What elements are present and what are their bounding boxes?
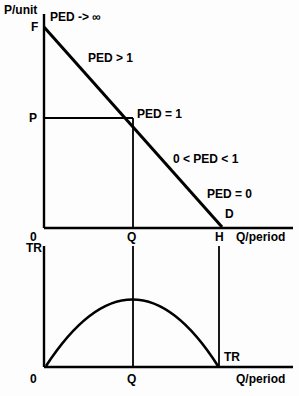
demand-curve-label: D [225,208,234,220]
lower-y-axis-label: TR [26,242,42,254]
region-unit-elastic-label: PED = 1 [137,108,182,120]
upper-quantity-tick-label: Q [127,231,136,243]
x-intercept-label: H [215,231,224,243]
lower-x-axis-label: Q/period [236,373,285,385]
total-revenue-curve-label: TR [224,351,240,363]
region-elastic-label: PED > 1 [88,52,133,64]
elasticity-revenue-diagram: P/unit F PED -> ∞ PED > 1 P PED = 1 0 < … [0,0,299,396]
upper-panel-group [44,14,293,228]
region-perfectly-inelastic-label: PED = 0 [207,188,252,200]
lower-origin-label: 0 [30,373,37,385]
point-f-label: F [31,21,38,33]
region-perfectly-elastic-label: PED -> ∞ [50,11,101,23]
region-inelastic-label: 0 < PED < 1 [173,153,238,165]
price-label: P [29,112,37,124]
lower-panel-group [44,246,293,367]
diagram-canvas [0,0,299,396]
upper-x-axis-label: Q/period [236,231,285,243]
lower-quantity-tick-label: Q [127,373,136,385]
upper-y-axis-label: P/unit [4,4,37,16]
total-revenue-curve [46,300,218,367]
